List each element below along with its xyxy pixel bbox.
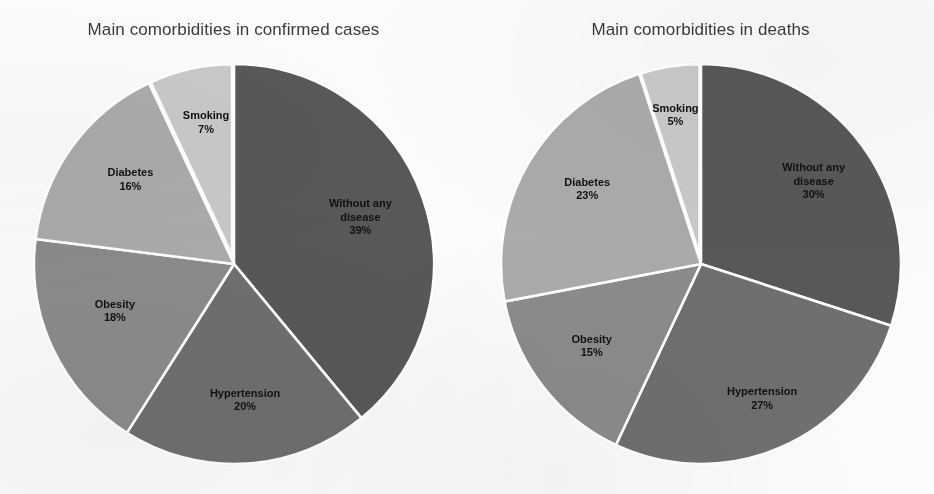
pie-chart-confirmed-cases: Without anydisease39%Hypertension20%Obes… — [32, 61, 436, 467]
pie-svg-deaths — [499, 61, 903, 467]
figure-root: Main comorbidities in confirmed cases Wi… — [0, 0, 934, 494]
chart-panel-confirmed-cases: Main comorbidities in confirmed cases Wi… — [0, 0, 467, 494]
chart-title-deaths: Main comorbidities in deaths — [467, 20, 934, 40]
chart-title-confirmed-cases: Main comorbidities in confirmed cases — [0, 20, 467, 40]
chart-panel-deaths: Main comorbidities in deaths Without any… — [467, 0, 934, 494]
pie-svg-confirmed-cases — [32, 61, 436, 467]
pie-chart-deaths: Without anydisease30%Hypertension27%Obes… — [499, 61, 903, 467]
